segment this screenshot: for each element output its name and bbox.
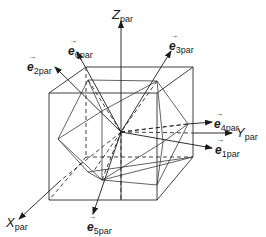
x-axis-letter: X xyxy=(6,215,15,230)
e6-letter: e xyxy=(68,44,75,58)
ico-edge xyxy=(157,81,188,124)
e1-subscript: 1par xyxy=(222,149,240,159)
e3-letter: e xyxy=(169,39,176,53)
e6-label: → e6par xyxy=(68,42,93,58)
icosahedron-cube-diagram: Zpar Ypar Xpar → e1par → e2par → e3par →… xyxy=(0,0,266,237)
vector-e3 xyxy=(121,51,171,132)
ico-edge xyxy=(88,157,193,172)
y-axis-subscript: par xyxy=(245,132,258,142)
z-axis-letter: Z xyxy=(112,7,120,22)
e5-label: → e5par xyxy=(87,218,112,234)
ico-hidden-edge xyxy=(93,132,121,172)
e5-letter: e xyxy=(87,220,94,234)
e3-label: → e3par xyxy=(169,37,194,53)
y-axis-label: Ypar xyxy=(236,124,258,140)
e5-subscript: 5par xyxy=(94,226,112,236)
cube-edge-bottom-right xyxy=(157,157,193,200)
z-axis-subscript: par xyxy=(120,14,133,24)
vector-e1 xyxy=(121,132,212,148)
vector-arrow-icon: → xyxy=(88,213,96,221)
ico-edge xyxy=(102,81,157,111)
vector-e2 xyxy=(55,67,121,132)
z-axis-label: Zpar xyxy=(112,6,133,22)
e1-letter: e xyxy=(215,143,222,157)
e4-subscript: 4par xyxy=(221,123,239,133)
ico-edge xyxy=(58,139,88,172)
ico-edge xyxy=(58,139,102,180)
e2-subscript: 2par xyxy=(34,66,52,76)
e3-subscript: 3par xyxy=(176,45,194,55)
vector-e5 xyxy=(93,132,121,214)
ico-edge xyxy=(102,180,157,185)
axes xyxy=(19,21,232,219)
x-axis-label: Xpar xyxy=(6,214,28,230)
ico-edge xyxy=(88,80,157,81)
e4-letter: e xyxy=(214,117,221,131)
basis-vectors xyxy=(55,51,212,214)
e2-letter: e xyxy=(27,60,34,74)
ico-edge xyxy=(58,111,102,139)
ico-edge xyxy=(102,157,193,180)
vector-arrow-icon: → xyxy=(28,53,36,61)
vector-e4 xyxy=(188,122,212,124)
cube-edge-top-left xyxy=(49,67,86,93)
vector-arrow-icon: → xyxy=(215,110,223,118)
vector-arrow-icon: → xyxy=(216,136,224,144)
y-axis-hidden xyxy=(121,132,193,133)
e6-subscript: 6par xyxy=(75,50,93,60)
e4-label: → e4par xyxy=(214,115,239,131)
ico-hidden-edge xyxy=(121,81,157,132)
vector-arrow-icon: → xyxy=(170,32,178,40)
ico-hidden-edge xyxy=(88,80,121,132)
vector-e6 xyxy=(77,52,121,132)
e2-label: → e2par xyxy=(27,58,52,74)
vector-arrow-icon: → xyxy=(69,37,77,45)
ico-edge xyxy=(58,80,88,139)
e1-label: → e1par xyxy=(215,141,240,157)
x-axis-subscript: par xyxy=(15,222,28,232)
